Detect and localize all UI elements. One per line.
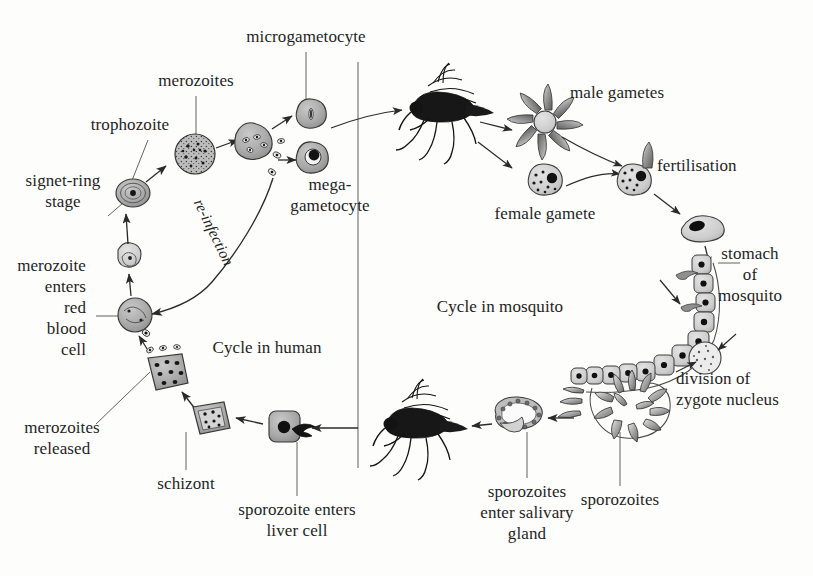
stage-merozoites-released bbox=[146, 344, 188, 390]
label-sporozoite-enters-liver-cell: sporozoite enters liver cell bbox=[238, 499, 355, 541]
stage-red-blood-cell bbox=[118, 298, 152, 338]
stage-mosquito-biting bbox=[396, 63, 494, 164]
label-merozoites: merozoites bbox=[158, 70, 234, 91]
label-mega-gametocyte: mega- gametocyte bbox=[290, 174, 369, 216]
stage-female-gamete bbox=[528, 164, 562, 195]
label-cycle-in-mosquito: Cycle in mosquito bbox=[437, 296, 563, 317]
stage-zygote bbox=[681, 216, 724, 242]
label-microgametocyte: microgametocyte bbox=[246, 26, 366, 47]
stage-schizont bbox=[193, 402, 230, 434]
stage-mosquito-injecting bbox=[370, 379, 468, 480]
label-female-gamete: female gamete bbox=[495, 203, 596, 224]
stage-merozoite-cluster bbox=[235, 123, 285, 177]
label-trophozoite: trophozoite bbox=[91, 114, 170, 135]
stage-fertilisation bbox=[617, 142, 653, 195]
label-sporozoites: sporozoites bbox=[581, 489, 660, 510]
stage-liver-cell bbox=[269, 411, 316, 442]
stage-microgametocyte bbox=[296, 99, 326, 128]
malaria-life-cycle-diagram: microgametocyte merozoites trophozoite s… bbox=[0, 0, 813, 576]
stage-trophozoite bbox=[175, 134, 215, 174]
stage-signet-ring bbox=[116, 179, 150, 207]
label-signet-ring-stage: signet-ring stage bbox=[26, 170, 101, 212]
label-sporozoites-enter-salivary-gland: sporozoites enter salivary gland bbox=[480, 481, 573, 544]
stage-megagametocyte bbox=[296, 142, 328, 173]
label-schizont: schizont bbox=[157, 473, 214, 494]
label-merozoites-released: merozoites released bbox=[24, 417, 100, 459]
label-merozoite-enters-red-blood-cell: merozoite enters red blood cell bbox=[17, 255, 86, 360]
label-division-of-zygote-nucleus: division of zygote nucleus bbox=[676, 368, 779, 410]
label-male-gametes: male gametes bbox=[570, 82, 664, 103]
diagram-artwork bbox=[0, 0, 813, 576]
label-fertilisation: fertilisation bbox=[657, 155, 737, 176]
label-stomach-of-mosquito: stomach of mosquito bbox=[718, 243, 782, 306]
label-cycle-in-human: Cycle in human bbox=[212, 337, 321, 358]
stage-merozoite-free bbox=[118, 243, 141, 267]
stage-salivary-gland bbox=[495, 397, 542, 432]
